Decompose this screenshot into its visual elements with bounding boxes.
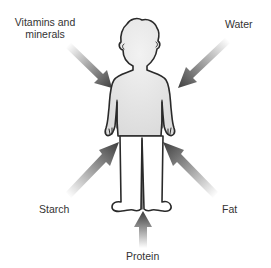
arrow-starch [66, 142, 119, 198]
label-vitamins-line2: minerals [12, 28, 78, 40]
label-vitamins-minerals: Vitamins and minerals [12, 16, 78, 40]
body-outline [105, 19, 174, 136]
nutrient-diagram: Vitamins and minerals Water Starch Fat P… [0, 0, 271, 268]
label-fat: Fat [222, 203, 237, 215]
label-water: Water [225, 18, 253, 30]
arrow-fat [163, 142, 218, 198]
arrow-protein [134, 211, 152, 250]
arrow-water [178, 37, 230, 88]
label-protein: Protein [126, 250, 159, 262]
human-figure [105, 19, 174, 212]
arrow-vitamins-minerals [66, 42, 112, 88]
diagram-graphics [0, 0, 271, 268]
label-starch: Starch [39, 203, 69, 215]
label-vitamins-line1: Vitamins and [12, 16, 78, 28]
